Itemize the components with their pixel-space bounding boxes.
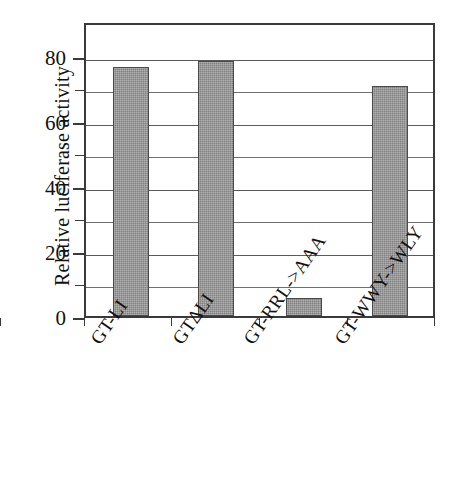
y-tick-label-60: 60 (0, 113, 66, 134)
y-tick-label-40: 40 (0, 178, 66, 199)
y-tick-major-0 (73, 318, 84, 320)
y-tick-major-20 (73, 253, 84, 255)
x-tick-1b (171, 318, 172, 326)
y-tick-minor-70 (75, 90, 84, 91)
y-tick-label-20: 20 (0, 243, 66, 264)
bar-gt-rrl-aaa (286, 298, 322, 316)
bar-chart-figure: Relative luciferase activity 0 20 40 60 … (0, 0, 452, 490)
y-tick-major-60 (73, 123, 84, 125)
y-tick-minor-30 (75, 220, 84, 221)
bar-gt-li (113, 67, 149, 316)
x-tick-1 (0, 318, 1, 326)
y-tick-major-40 (73, 188, 84, 190)
gridline-80 (86, 60, 433, 61)
y-tick-major-80 (73, 58, 84, 60)
y-tick-minor-50 (75, 155, 84, 156)
y-tick-label-0: 0 (0, 308, 66, 329)
x-tick-0 (84, 318, 85, 326)
x-tick-4 (434, 318, 435, 326)
y-tick-label-80: 80 (0, 48, 66, 69)
bar-gt-delta-li (198, 61, 234, 316)
y-tick-minor-10 (75, 285, 84, 286)
